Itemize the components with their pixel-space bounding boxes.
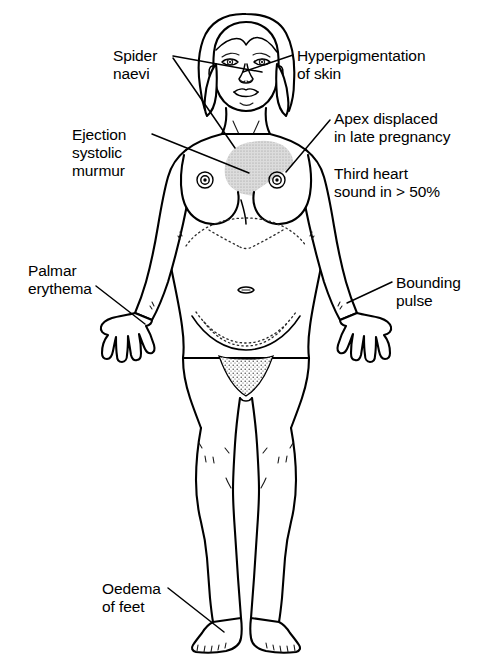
annotation-oedema-of-feet: Oedemaof feet [102,580,161,616]
annotation-line: Bounding [396,274,461,291]
annotation-line: pulse [396,292,433,309]
right-leg-outline [251,398,296,622]
annotation-spider-naevi: Spidernaevi [113,47,157,83]
annotation-third-heart-sound: Third heartsound in > 50% [334,165,440,201]
annotation-line: naevi [113,65,150,82]
right-nipple-centre [275,178,278,181]
left-knee-mark-3 [225,448,229,453]
left-leg-outline [196,398,241,622]
right-knee-mark-2 [278,456,287,463]
right-foot-outline [250,618,300,653]
annotation-line: Spider [113,47,157,64]
annotation-line: of skin [297,65,341,82]
left-popliteal [226,478,231,488]
crotch-line [240,398,252,401]
right-hand-outline [338,313,392,362]
annotation-line: of feet [102,598,144,615]
annotation-ejection-systolic-murmur: Ejectionsystolicmurmur [72,126,126,180]
annotation-line: murmur [72,162,125,179]
right-knee-mark-3 [263,448,267,453]
annotation-line: Third heart [334,165,408,182]
left-knee-mark-2 [205,456,214,463]
annotation-line: erythema [28,280,92,297]
annotation-line: Ejection [72,126,126,143]
left-hand-outline [101,313,155,362]
annotation-apex-displaced: Apex displacedin late pregnancy [334,110,450,146]
annotation-bounding-pulse: Boundingpulse [396,274,461,310]
annotation-line: Oedema [102,580,161,597]
left-nipple-centre [203,178,206,181]
annotation-palmar-erythema: Palmarerythema [28,262,92,298]
pubic-area [219,356,273,396]
leader-bounding-pulse [347,282,392,303]
right-pupil [261,61,263,63]
clinical-signs-figure: Spidernaevi Hyperpigmentationof skin Eje… [0,0,483,664]
right-popliteal [261,478,266,488]
annotation-line: in late pregnancy [334,128,450,145]
left-pupil [229,61,231,63]
annotation-line: Hyperpigmentation [297,47,425,64]
body-diagram-svg [0,0,483,664]
annotation-line: Palmar [28,262,77,279]
annotation-line: sound in > 50% [334,183,440,200]
annotation-line: Apex displaced [334,110,438,127]
left-foot-outline [192,618,242,653]
leader-oedema-feet [168,588,224,632]
annotation-hyperpigmentation-of-skin: Hyperpigmentationof skin [297,47,425,83]
head-outline [213,22,278,111]
annotation-line: systolic [72,144,122,161]
